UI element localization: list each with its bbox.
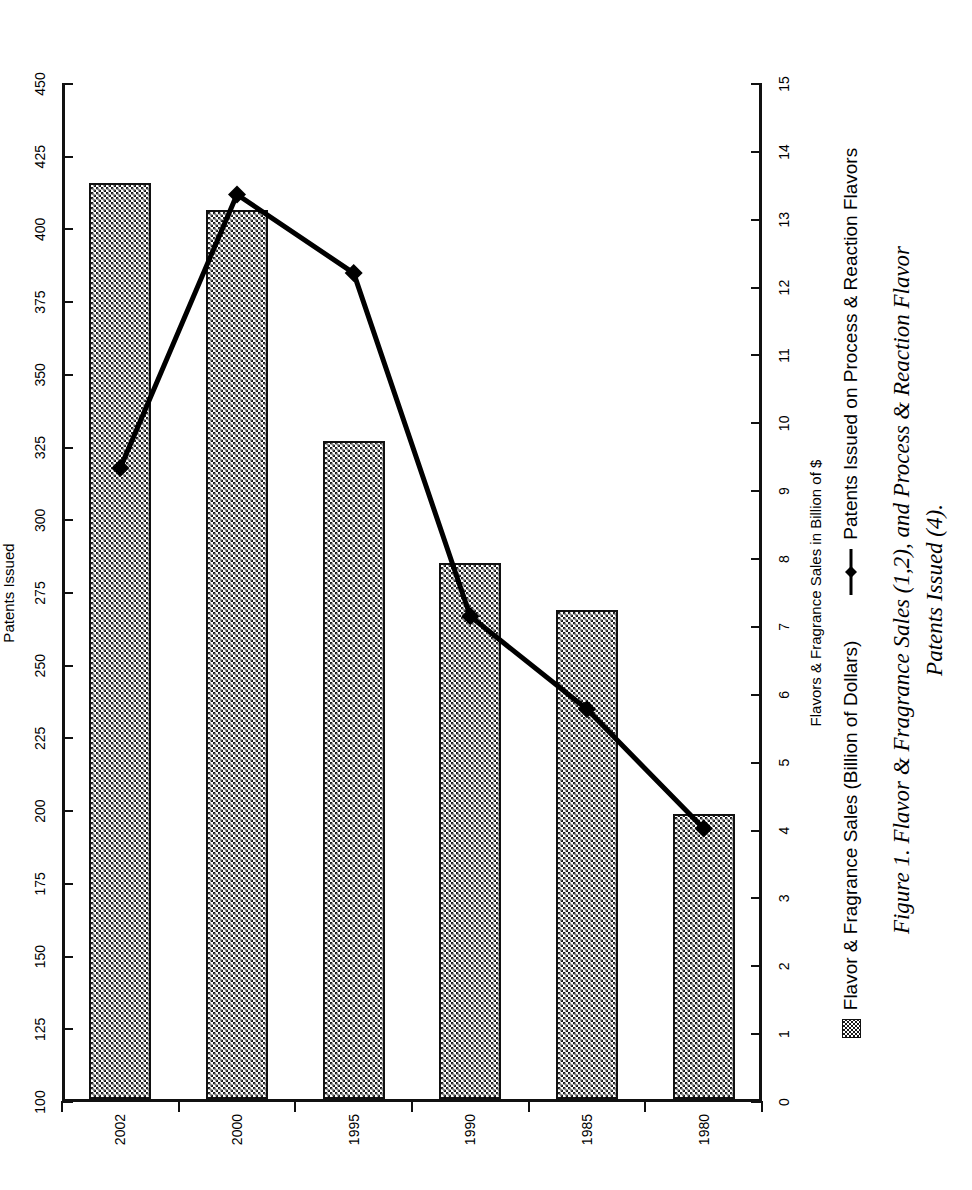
pattern-swatch-icon: [842, 1019, 861, 1038]
patents-tick-label: 150: [32, 945, 48, 968]
patents-tick-label: 225: [32, 727, 48, 750]
patents-tick-label: 450: [32, 72, 48, 95]
sales-tick-label: 11: [776, 348, 792, 363]
category-tick: [178, 1101, 180, 1112]
legend-label-sales: Flavor & Fragrance Sales (Billion of Dol…: [840, 641, 862, 1011]
patents-tick: [62, 1028, 73, 1030]
category-tick: [528, 1101, 530, 1112]
sales-tick: [751, 219, 762, 221]
chart-stage: 0123456789101112131415 10012515017520022…: [0, 0, 972, 1190]
patents-tick-label: 175: [32, 872, 48, 895]
patents-tick-label: 425: [32, 145, 48, 168]
sales-tick: [751, 490, 762, 492]
category-tick: [294, 1101, 296, 1112]
sales-tick: [751, 626, 762, 628]
patents-tick: [62, 883, 73, 885]
sales-tick-label: 3: [776, 895, 792, 903]
sales-tick: [751, 151, 762, 153]
line-diamond-icon: [844, 549, 858, 595]
sales-tick-label: 1: [776, 1030, 792, 1038]
patents-tick: [62, 301, 73, 303]
sales-tick-label: 7: [776, 623, 792, 631]
patents-tick: [62, 592, 73, 594]
sales-tick-label: 8: [776, 555, 792, 563]
patents-tick: [62, 956, 73, 958]
figure-caption: Figure 1. Flavor & Fragrance Sales (1,2)…: [886, 140, 951, 1040]
sales-tick: [751, 354, 762, 356]
patents-tick-label: 400: [32, 218, 48, 241]
sales-tick: [751, 83, 762, 85]
category-tick: [644, 1101, 646, 1112]
sales-tick-label: 12: [776, 280, 792, 296]
legend-item-patents[interactable]: Patents Issued on Process & Reaction Fla…: [840, 148, 862, 595]
patents-line-series: [62, 84, 762, 1102]
patents-tick-label: 100: [32, 1090, 48, 1113]
sales-tick-label: 0: [776, 1098, 792, 1106]
patents-tick: [62, 519, 73, 521]
sales-tick-label: 14: [776, 144, 792, 160]
patents-tick-label: 200: [32, 799, 48, 822]
sales-tick-label: 6: [776, 691, 792, 699]
category-tick-label-1980: 1980: [696, 1114, 712, 1166]
category-tick: [61, 1101, 63, 1112]
patents-polyline: [120, 195, 703, 829]
sales-tick: [751, 558, 762, 560]
category-tick-label-1995: 1995: [346, 1114, 362, 1166]
caption-line-2: Patents Issued (4).: [919, 140, 952, 1040]
patents-tick: [62, 737, 73, 739]
sales-tick: [751, 897, 762, 899]
patents-tick: [62, 228, 73, 230]
marker-2002: [111, 459, 129, 477]
category-tick-label-1985: 1985: [579, 1114, 595, 1166]
patents-tick: [62, 83, 73, 85]
sales-tick: [751, 762, 762, 764]
sales-tick-label: 4: [776, 827, 792, 835]
legend-label-patents: Patents Issued on Process & Reaction Fla…: [840, 148, 862, 540]
sales-tick: [751, 422, 762, 424]
legend-item-sales[interactable]: Flavor & Fragrance Sales (Billion of Dol…: [840, 641, 862, 1039]
sales-tick-label: 10: [776, 416, 792, 432]
category-tick-label-1990: 1990: [462, 1114, 478, 1166]
chart-legend: Flavor & Fragrance Sales (Billion of Dol…: [840, 84, 862, 1102]
patents-tick: [62, 156, 73, 158]
sales-axis-title: Flavors & Fragrance Sales in Billion of …: [807, 84, 824, 1102]
sales-tick-label: 9: [776, 487, 792, 495]
patents-tick: [62, 810, 73, 812]
sales-tick: [751, 1033, 762, 1035]
patents-tick: [62, 447, 73, 449]
category-tick-label-2002: 2002: [112, 1114, 128, 1166]
patents-axis-title: Patents Issued: [0, 84, 17, 1102]
sales-tick: [751, 965, 762, 967]
patents-tick-label: 350: [32, 363, 48, 386]
sales-tick-label: 5: [776, 759, 792, 767]
patents-tick-label: 300: [32, 509, 48, 532]
patents-tick-label: 125: [32, 1018, 48, 1041]
category-tick: [761, 1101, 763, 1112]
patents-tick-label: 375: [32, 290, 48, 313]
figure-root: 0123456789101112131415 10012515017520022…: [0, 0, 972, 1190]
patents-tick: [62, 1101, 73, 1103]
sales-tick-label: 2: [776, 962, 792, 970]
sales-tick-label: 13: [776, 212, 792, 228]
plot-area: 0123456789101112131415 10012515017520022…: [62, 84, 762, 1102]
patents-tick: [62, 374, 73, 376]
sales-tick: [751, 287, 762, 289]
patents-tick-label: 275: [32, 581, 48, 604]
category-tick-label-2000: 2000: [229, 1114, 245, 1166]
caption-line-1: Figure 1. Flavor & Fragrance Sales (1,2)…: [886, 140, 919, 1040]
sales-tick: [751, 694, 762, 696]
sales-tick: [751, 830, 762, 832]
category-tick: [411, 1101, 413, 1112]
patents-tick-label: 250: [32, 654, 48, 677]
patents-tick-label: 325: [32, 436, 48, 459]
sales-tick-label: 15: [776, 76, 792, 92]
patents-tick: [62, 665, 73, 667]
